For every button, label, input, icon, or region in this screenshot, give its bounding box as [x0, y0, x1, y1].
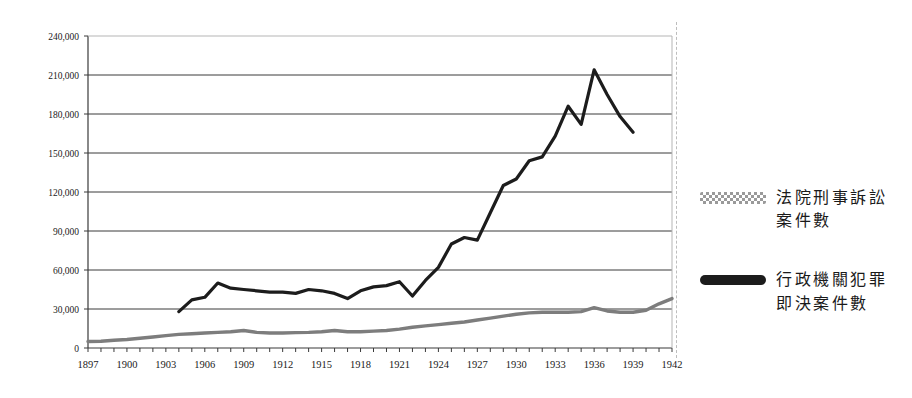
y-tick-label: 90,000 [53, 227, 79, 237]
x-tick-label: 1936 [584, 359, 605, 370]
y-tick-label: 210,000 [48, 71, 79, 81]
y-tick-label: 30,000 [53, 305, 79, 315]
legend-entry-court-criminal: 法院刑事訴訟案件數 [700, 186, 905, 232]
y-tick-label: 60,000 [53, 266, 79, 276]
x-tick-label: 1942 [662, 359, 683, 370]
x-tick-label: 1930 [506, 359, 527, 370]
x-tick-label: 1897 [78, 359, 99, 370]
legend-label-court-criminal: 法院刑事訴訟案件數 [776, 186, 894, 232]
x-tick-label: 1924 [428, 359, 450, 370]
x-axis-tick-labels: 1897190019031906190919121915191819211924… [78, 359, 683, 370]
series-line-1 [179, 70, 633, 312]
y-tick-label: 0 [74, 344, 79, 354]
x-tick-label: 1915 [311, 359, 332, 370]
chart-legend: 法院刑事訴訟案件數 行政機關犯罪即決案件數 [700, 186, 905, 351]
series-line-0 [88, 299, 672, 342]
y-axis-tick-labels: 030,00060,00090,000120,000150,000180,000… [48, 32, 79, 354]
legend-label-administrative-summary: 行政機關犯罪即決案件數 [776, 268, 894, 314]
page-edge-artifact [676, 22, 677, 358]
x-tick-label: 1906 [194, 359, 215, 370]
x-tick-label: 1900 [116, 359, 137, 370]
y-tick-label: 180,000 [48, 110, 79, 120]
x-tick-label: 1918 [350, 359, 371, 370]
chart-figure: 030,00060,00090,000120,000150,000180,000… [0, 0, 912, 398]
x-tick-label: 1933 [545, 359, 566, 370]
x-tick-label: 1912 [272, 359, 293, 370]
x-tick-label: 1903 [155, 359, 176, 370]
legend-swatch-hatched-gray-line [700, 192, 766, 204]
y-tick-label: 240,000 [48, 32, 79, 42]
x-tick-label: 1909 [233, 359, 254, 370]
series-lines [88, 70, 672, 342]
legend-swatch-solid-black-line [700, 275, 766, 285]
x-tick-label: 1921 [389, 359, 410, 370]
y-tick-label: 120,000 [48, 188, 79, 198]
x-tick-label: 1939 [623, 359, 644, 370]
x-tick-label: 1927 [467, 359, 488, 370]
legend-entry-administrative-summary: 行政機關犯罪即決案件數 [700, 268, 905, 314]
y-tick-label: 150,000 [48, 149, 79, 159]
